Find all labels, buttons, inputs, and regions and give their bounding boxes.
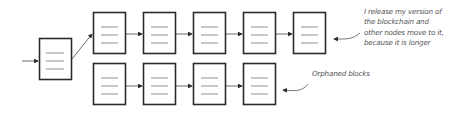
genesis-block [40,39,72,80]
top-chain [94,13,326,54]
annotation-line: the blockchain and [364,17,444,27]
block [144,64,176,105]
block [294,13,326,54]
annotation-orphaned-blocks: Orphaned blocks [312,69,370,79]
block [244,13,276,54]
block [194,13,226,54]
block [94,64,126,105]
bottom-chain [94,64,276,105]
annotation-line: because it is longer [364,38,444,48]
block [94,13,126,54]
fork-arrow [72,34,92,59]
annotation-arrow-bottom [283,84,308,91]
block [144,13,176,54]
annotation-line: other nodes move to it, [364,28,444,38]
annotation-line: I release my version of [364,7,444,17]
annotation-arrow-top [334,33,360,39]
block [244,64,276,105]
annotation-longer-chain: I release my version of the blockchain a… [364,7,444,48]
block [194,64,226,105]
